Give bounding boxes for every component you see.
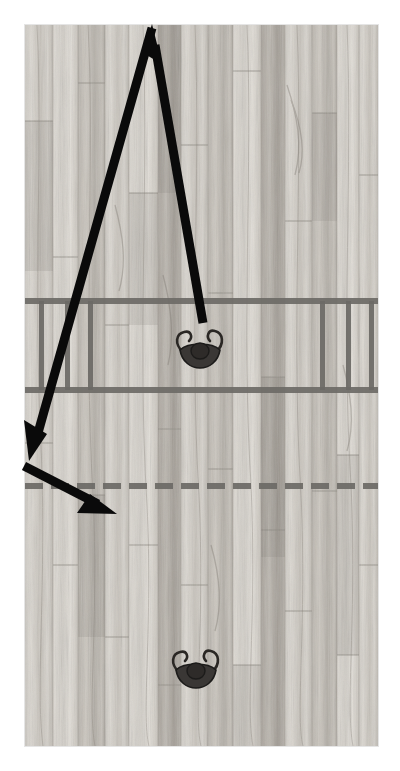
basketball-court-photo	[25, 25, 378, 746]
free-throw-line-upper	[25, 298, 378, 304]
court-markings-layer	[25, 25, 378, 746]
lane-hash-marks	[39, 301, 374, 390]
free-throw-line-lower	[25, 387, 378, 393]
scene-stage: Basketball half-court play diagram	[0, 0, 400, 771]
